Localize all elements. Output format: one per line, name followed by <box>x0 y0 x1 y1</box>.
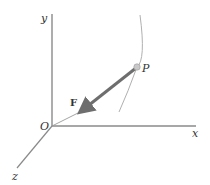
x-axis-label: x <box>192 127 199 140</box>
force-position-diagram: y x z O P F <box>0 0 210 185</box>
origin-label: O <box>40 120 49 133</box>
force-label: F <box>70 97 77 108</box>
point-p <box>134 64 140 70</box>
y-axis-label: y <box>40 12 48 25</box>
force-vector <box>84 68 136 109</box>
z-axis-label: z <box>11 170 18 183</box>
position-line <box>52 112 80 126</box>
point-label: P <box>141 62 150 75</box>
trajectory-curve <box>119 15 142 112</box>
